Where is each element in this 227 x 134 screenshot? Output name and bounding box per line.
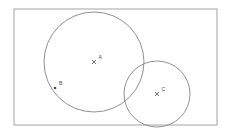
point-c-label: C xyxy=(162,86,166,92)
geometry-figure: A B C xyxy=(0,0,227,134)
point-b-marker xyxy=(54,87,57,90)
point-a-label: A xyxy=(99,54,103,60)
point-a-marker xyxy=(92,60,96,64)
figure-canvas: A B C xyxy=(0,0,227,134)
point-c-marker xyxy=(155,92,159,96)
point-b-dot xyxy=(54,87,57,90)
point-b-label: B xyxy=(59,80,63,86)
